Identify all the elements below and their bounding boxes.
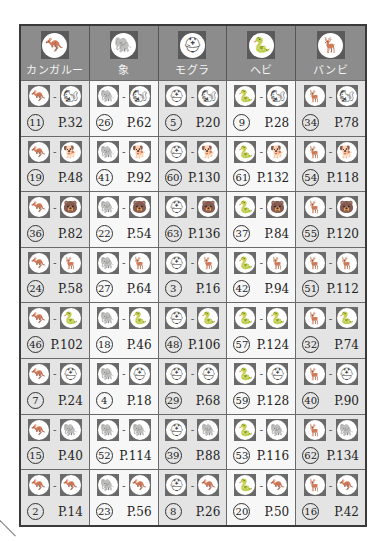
header-kangaroo: 🦘 カンガルー bbox=[21, 26, 90, 80]
partner-icon: 🐕 bbox=[266, 141, 288, 163]
pair-icons: 🐍-🐕 bbox=[227, 141, 295, 163]
snake-icon: 🐍 bbox=[234, 307, 256, 329]
separator: - bbox=[258, 480, 264, 491]
pair-cell-kangaroo: 🦘-🐿11P.32 bbox=[21, 81, 90, 136]
page-reference: P.14 bbox=[58, 505, 83, 519]
separator: - bbox=[121, 368, 127, 379]
page-reference: P.18 bbox=[127, 394, 152, 408]
pair-cell-kangaroo: 🦘-🐻36P.82 bbox=[21, 192, 90, 247]
kangaroo-icon: 🦘 bbox=[28, 252, 50, 274]
bambi-icon: 🦌 bbox=[317, 31, 345, 59]
header-label: 象 bbox=[118, 61, 130, 77]
pair-cell-snake: 🐍-🐿9P.28 bbox=[227, 81, 296, 136]
circled-number: 59 bbox=[233, 392, 250, 409]
circled-number: 2 bbox=[27, 503, 44, 520]
separator: - bbox=[328, 480, 334, 491]
pair-cell-bambi: 🦌-⛑40P.90 bbox=[296, 359, 365, 414]
circled-number: 23 bbox=[96, 503, 113, 520]
mole-icon: ⛑ bbox=[165, 363, 187, 385]
partner-icon: 🐍 bbox=[197, 307, 219, 329]
partner-icon: 🐘 bbox=[266, 419, 288, 441]
pair-icons: 🦘-🦌 bbox=[21, 252, 89, 274]
table-row: 🦘-🦌24P.58🐘-🦌27P.64⛑-🦌3P.16🐍-🦌42P.94🦌-🦌51… bbox=[21, 247, 365, 303]
bambi-icon: 🦌 bbox=[304, 196, 326, 218]
elephant-icon: 🐘 bbox=[97, 419, 119, 441]
partner-icon: 🐕 bbox=[129, 141, 151, 163]
separator: - bbox=[121, 313, 127, 324]
pair-icons: 🦌-🐻 bbox=[296, 196, 365, 218]
pair-icons: ⛑-🦘 bbox=[159, 474, 227, 496]
kangaroo-icon: 🦘 bbox=[28, 196, 50, 218]
partner-icon: 🐻 bbox=[336, 196, 358, 218]
kangaroo-icon: 🦘 bbox=[28, 363, 50, 385]
pair-icons: 🐍-🐍 bbox=[227, 307, 295, 329]
table-row: 🦘-🐍46P.102🐘-🐍18P.46⛑-🐍48P.106🐍-🐍57P.124🦌… bbox=[21, 302, 365, 358]
circled-number: 62 bbox=[302, 447, 319, 464]
separator: - bbox=[328, 313, 334, 324]
pair-icons: 🦌-🦌 bbox=[296, 252, 365, 274]
pair-icons: ⛑-⛑ bbox=[159, 363, 227, 385]
pair-icons: 🐘-🦌 bbox=[90, 252, 158, 274]
pair-cell-elephant: 🐘-🐘52P.114 bbox=[90, 415, 159, 470]
animal-pairing-table: 🦘 カンガルー 🐘 象 ⛑ モグラ 🐍 ヘビ 🦌 バンビ 🦘-🐿11P.32🐘-… bbox=[19, 24, 367, 527]
separator: - bbox=[189, 91, 195, 102]
partner-icon: 🐿 bbox=[197, 85, 219, 107]
circled-number: 7 bbox=[27, 392, 44, 409]
pair-cell-snake: 🐍-🦘20P.50 bbox=[227, 470, 296, 525]
mole-icon: ⛑ bbox=[165, 419, 187, 441]
pair-icons: 🐘-🦘 bbox=[90, 474, 158, 496]
pair-icons: 🐘-⛑ bbox=[90, 363, 158, 385]
kangaroo-icon: 🦘 bbox=[28, 474, 50, 496]
circled-number: 8 bbox=[165, 503, 182, 520]
partner-icon: 🐻 bbox=[129, 196, 151, 218]
separator: - bbox=[52, 480, 58, 491]
page-reference: P.118 bbox=[327, 171, 359, 185]
pair-icons: 🦘-⛑ bbox=[21, 363, 89, 385]
separator: - bbox=[328, 368, 334, 379]
mole-icon: ⛑ bbox=[165, 307, 187, 329]
mole-icon: ⛑ bbox=[165, 474, 187, 496]
pair-cell-elephant: 🐘-🐿26P.62 bbox=[90, 81, 159, 136]
snake-icon: 🐍 bbox=[234, 85, 256, 107]
page-reference: P.46 bbox=[127, 338, 152, 352]
bambi-icon: 🦌 bbox=[304, 419, 326, 441]
elephant-icon: 🐘 bbox=[97, 85, 119, 107]
page-reference: P.88 bbox=[196, 449, 221, 463]
elephant-icon: 🐘 bbox=[97, 474, 119, 496]
separator: - bbox=[52, 424, 58, 435]
pair-icons: 🦘-🐿 bbox=[21, 85, 89, 107]
pair-icons: ⛑-🐍 bbox=[159, 307, 227, 329]
page-reference: P.42 bbox=[334, 505, 359, 519]
pair-icons: 🐘-🐻 bbox=[90, 196, 158, 218]
pair-cell-kangaroo: 🦘-🦘2P.14 bbox=[21, 470, 90, 525]
page-reference: P.102 bbox=[50, 338, 82, 352]
separator: - bbox=[328, 424, 334, 435]
circled-number: 48 bbox=[165, 336, 182, 353]
page-reference: P.50 bbox=[264, 505, 289, 519]
snake-icon: 🐍 bbox=[234, 252, 256, 274]
page-reference: P.28 bbox=[264, 116, 289, 130]
kangaroo-icon: 🦘 bbox=[28, 307, 50, 329]
circled-number: 42 bbox=[233, 280, 250, 297]
pair-icons: 🐍-🐿 bbox=[227, 85, 295, 107]
circled-number: 55 bbox=[302, 225, 319, 242]
partner-icon: ⛑ bbox=[197, 363, 219, 385]
separator: - bbox=[52, 146, 58, 157]
separator: - bbox=[189, 480, 195, 491]
pair-icons: 🐘-🐘 bbox=[90, 419, 158, 441]
page-reference: P.90 bbox=[334, 394, 359, 408]
circled-number: 60 bbox=[165, 169, 182, 186]
partner-icon: 🐿 bbox=[266, 85, 288, 107]
pair-cell-bambi: 🦌-🐻55P.120 bbox=[296, 192, 365, 247]
separator: - bbox=[328, 257, 334, 268]
circled-number: 32 bbox=[302, 336, 319, 353]
header-elephant: 🐘 象 bbox=[90, 26, 159, 80]
circled-number: 26 bbox=[96, 114, 113, 131]
pair-cell-kangaroo: 🦘-🦌24P.58 bbox=[21, 248, 90, 303]
circled-number: 16 bbox=[302, 503, 319, 520]
bambi-icon: 🦌 bbox=[304, 85, 326, 107]
pair-cell-snake: 🐍-🐍57P.124 bbox=[227, 303, 296, 358]
partner-icon: 🦘 bbox=[197, 474, 219, 496]
page-reference: P.62 bbox=[127, 116, 152, 130]
pair-icons: 🦌-🦘 bbox=[296, 474, 365, 496]
